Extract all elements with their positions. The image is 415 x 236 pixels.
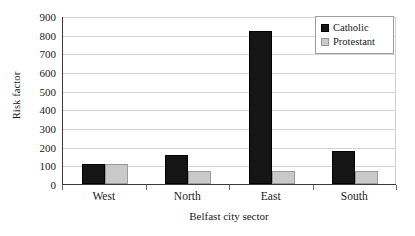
x-axis-tick-label-south: South <box>341 190 368 202</box>
x-axis-tick-label-west: West <box>92 190 115 202</box>
x-axis-tick-labels: WestNorthEastSouth <box>62 190 396 208</box>
bar-group-north <box>165 17 211 184</box>
y-axis-tick-label: 0 <box>51 180 57 191</box>
y-axis-tick-label: 800 <box>40 30 57 41</box>
legend-swatch-catholic-icon <box>321 24 329 32</box>
bar-south-protestant <box>355 171 378 184</box>
legend: CatholicProtestant <box>315 16 394 54</box>
y-axis-tick-label: 500 <box>40 86 57 97</box>
bar-group-west <box>82 17 128 184</box>
y-axis-tick-label: 100 <box>40 161 57 172</box>
x-axis-tick-label-north: North <box>174 190 201 202</box>
legend-item-protestant: Protestant <box>321 35 388 49</box>
bar-north-catholic <box>165 155 188 184</box>
bar-south-catholic <box>332 151 355 184</box>
bar-east-catholic <box>249 31 272 184</box>
bar-group-east <box>249 17 295 184</box>
x-axis-tick <box>396 185 397 190</box>
x-axis-title-text: Belfast city sector <box>189 210 268 222</box>
legend-label: Protestant <box>333 37 375 48</box>
x-axis-title: Belfast city sector <box>62 210 396 222</box>
y-axis-tick-label: 200 <box>40 142 57 153</box>
bar-chart: Risk factor 9008007006005004003002001000… <box>0 0 415 236</box>
x-axis-tick-label-east: East <box>261 190 281 202</box>
legend-swatch-protestant-icon <box>321 38 329 46</box>
bar-west-protestant <box>105 164 128 184</box>
bar-east-protestant <box>272 171 295 184</box>
legend-label: Catholic <box>333 23 369 34</box>
y-axis-title-text: Risk factor <box>12 71 23 118</box>
legend-item-catholic: Catholic <box>321 21 388 35</box>
y-axis-tick-label: 600 <box>40 68 57 79</box>
y-axis-tick-labels: 9008007006005004003002001000 <box>26 17 59 185</box>
y-axis-tick-label: 700 <box>40 49 57 60</box>
y-axis-tick-label: 400 <box>40 105 57 116</box>
bar-west-catholic <box>82 164 105 184</box>
y-axis-tick-label: 900 <box>40 12 57 23</box>
bar-north-protestant <box>188 171 211 184</box>
y-axis-tick-label: 300 <box>40 124 57 135</box>
y-axis-title: Risk factor <box>8 0 26 190</box>
